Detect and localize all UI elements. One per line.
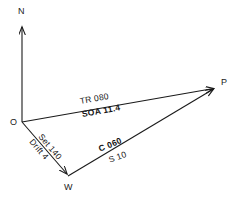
vector-triangle-diagram: N O P W TR 080 SOA 11.4 Set 140 Drift 4 … [0,0,236,201]
vertex-label-position: P [221,78,227,87]
vertex-label-origin: O [10,118,17,127]
vector-diagram-canvas [0,0,236,201]
vertex-label-north: N [18,7,25,16]
vertex-label-water: W [64,183,73,192]
